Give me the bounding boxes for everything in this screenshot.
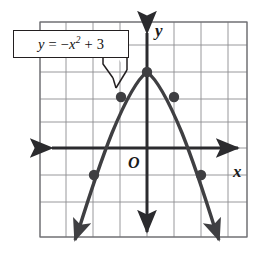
point-vertex xyxy=(142,67,152,77)
equation-callout-box: y = −x2 + 3 xyxy=(13,30,129,58)
equation-constant: 3 xyxy=(97,36,104,52)
callout-pointer xyxy=(103,58,127,88)
point-2-neg1 xyxy=(196,170,206,180)
y-axis-label: y xyxy=(155,22,163,39)
graph-figure: y = −x2 + 3 y x O xyxy=(0,0,261,253)
x-axis-label: x xyxy=(233,163,242,180)
origin-label: O xyxy=(128,155,140,171)
point-neg2-neg1 xyxy=(89,170,99,180)
equation-variable: x xyxy=(69,36,76,52)
equation-exponent: 2 xyxy=(76,35,81,45)
equation-text: y = −x2 + 3 xyxy=(38,36,104,53)
equation-equals: = xyxy=(48,36,56,52)
equation-plus: + xyxy=(84,36,92,52)
equation-sign: − xyxy=(61,36,69,52)
point-1-2 xyxy=(169,92,179,102)
equation-lhs: y xyxy=(38,36,45,52)
point-neg1-2 xyxy=(116,92,126,102)
